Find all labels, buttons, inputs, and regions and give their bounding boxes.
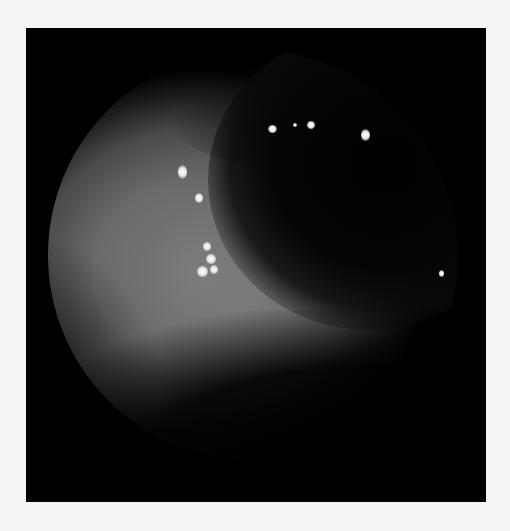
- highlight-spot: [178, 165, 187, 179]
- endoscope-field: [48, 50, 458, 460]
- highlight-spot: [206, 254, 216, 264]
- highlight-spot: [439, 270, 444, 277]
- highlight-spot: [361, 129, 370, 141]
- highlight-spot: [268, 125, 277, 133]
- highlight-spot: [210, 265, 218, 274]
- highlight-spot: [197, 266, 208, 277]
- lumen-dark-region: [208, 50, 458, 330]
- highlight-spot: [307, 121, 315, 129]
- highlight-spot: [203, 242, 211, 251]
- highlight-spot: [195, 193, 203, 203]
- highlight-spot: [293, 123, 297, 127]
- image-frame: [26, 28, 486, 502]
- lower-shadow: [48, 310, 458, 460]
